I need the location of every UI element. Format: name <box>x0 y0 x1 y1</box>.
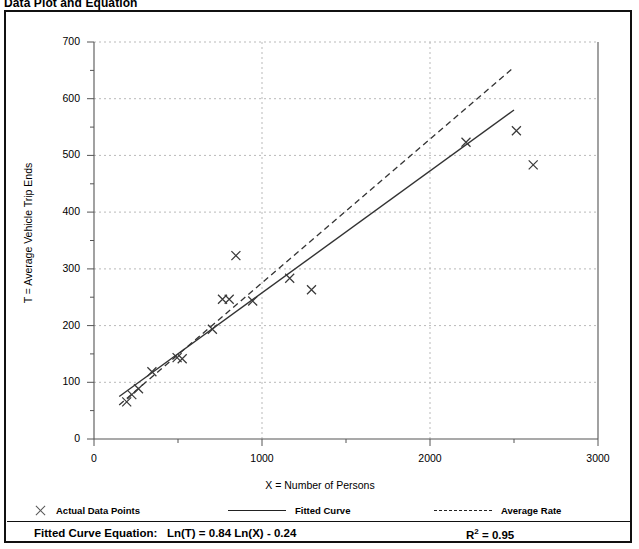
y-tick-label-100: 100 <box>38 375 80 387</box>
r-squared-exponent: 2 <box>474 527 478 536</box>
legend-item-fitted-curve: Fitted Curve <box>228 499 350 521</box>
fitted-curve-equation: Fitted Curve Equation: Ln(T) = 0.84 Ln(X… <box>34 527 296 539</box>
fitted-curve-line <box>119 110 514 397</box>
plot-axes <box>94 42 598 439</box>
legend-label-actual-data-points: Actual Data Points <box>56 505 140 516</box>
x-tick-label-3000: 3000 <box>568 452 628 464</box>
y-tick-label-0: 0 <box>38 432 80 444</box>
chart-figure-frame: 700 600 500 400 300 200 100 0 0 1000 200… <box>4 10 632 543</box>
chart-legend: Actual Data Points Fitted Curve Average … <box>6 499 634 521</box>
y-axis-title: T = Average Vehicle Trip Ends <box>22 133 34 333</box>
legend-label-average-rate: Average Rate <box>501 505 561 516</box>
x-tick-label-2000: 2000 <box>400 452 460 464</box>
legend-item-average-rate: Average Rate <box>434 499 561 521</box>
chart-footer: Fitted Curve Equation: Ln(T) = 0.84 Ln(X… <box>6 527 634 549</box>
x-tick-label-1000: 1000 <box>232 452 292 464</box>
y-tick-label-600: 600 <box>38 92 80 104</box>
legend-item-actual-data-points: Actual Data Points <box>34 499 140 521</box>
y-tick-label-500: 500 <box>38 148 80 160</box>
equation-label: Fitted Curve Equation: <box>34 527 157 539</box>
page-title: Data Plot and Equation <box>4 0 138 10</box>
footer-divider <box>7 521 631 522</box>
gridlines <box>94 42 598 439</box>
solid-line-icon <box>228 510 286 511</box>
y-tick-label-200: 200 <box>38 319 80 331</box>
y-tick-label-400: 400 <box>38 205 80 217</box>
r-squared-value: R2 = 0.95 <box>466 527 514 541</box>
data-point-markers <box>122 126 538 406</box>
equation-expression: Ln(T) = 0.84 Ln(X) - 0.24 <box>167 527 296 539</box>
x-axis-ticks <box>94 439 598 446</box>
dashed-line-icon <box>434 510 492 511</box>
scatter-plot-svg <box>6 12 634 545</box>
plot-region: 700 600 500 400 300 200 100 0 0 1000 200… <box>6 12 634 545</box>
x-axis-title: X = Number of Persons <box>6 479 634 491</box>
legend-label-fitted-curve: Fitted Curve <box>295 505 350 516</box>
cross-marker-icon <box>34 504 47 517</box>
r-squared-number: = 0.95 <box>482 529 514 541</box>
y-tick-label-300: 300 <box>38 262 80 274</box>
y-tick-label-700: 700 <box>38 35 80 47</box>
x-tick-label-0: 0 <box>64 452 124 464</box>
y-axis-ticks <box>87 42 94 439</box>
